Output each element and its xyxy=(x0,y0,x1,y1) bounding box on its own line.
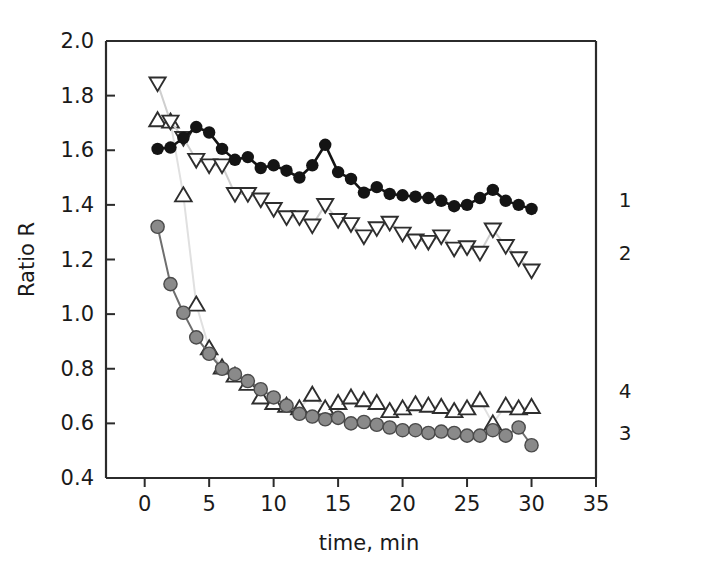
y-tick-label: 0.4 xyxy=(61,466,94,490)
series-1-marker xyxy=(525,203,537,215)
series-3-marker xyxy=(460,429,473,442)
series-1-marker xyxy=(306,159,318,171)
x-axis-title: time, min xyxy=(319,531,419,555)
ratio-r-vs-time-chart: 0.40.60.81.01.21.41.61.82.00510152025303… xyxy=(0,0,727,580)
y-tick-label: 1.0 xyxy=(61,302,94,326)
series-3-marker xyxy=(267,391,280,404)
series-3-marker xyxy=(319,413,332,426)
series-1-marker xyxy=(190,121,202,133)
series-label-1: 1 xyxy=(619,188,632,212)
series-1-marker xyxy=(229,154,241,166)
y-tick-label: 0.6 xyxy=(61,411,94,435)
series-1-marker xyxy=(345,173,357,185)
series-1-marker xyxy=(383,188,395,200)
series-3-marker xyxy=(241,374,254,387)
series-1-marker xyxy=(422,192,434,204)
series-1-marker xyxy=(242,151,254,163)
series-1-marker xyxy=(267,159,279,171)
series-1-marker xyxy=(461,199,473,211)
series-3-marker xyxy=(422,426,435,439)
series-3-marker xyxy=(293,407,306,420)
x-tick-label: 20 xyxy=(389,492,416,516)
series-1-marker xyxy=(164,141,176,153)
chart-background xyxy=(0,0,727,580)
series-1-marker xyxy=(216,143,228,155)
series-label-3: 3 xyxy=(619,421,632,445)
series-1-marker xyxy=(293,171,305,183)
series-1-marker xyxy=(396,189,408,201)
x-tick-label: 5 xyxy=(202,492,215,516)
series-label-2: 2 xyxy=(619,241,632,265)
series-1-marker xyxy=(280,165,292,177)
series-1-marker xyxy=(332,166,344,178)
series-3-marker xyxy=(499,429,512,442)
series-3-marker xyxy=(344,417,357,430)
series-1-marker xyxy=(371,181,383,193)
series-1-marker xyxy=(435,195,447,207)
series-label-4: 4 xyxy=(619,379,632,403)
x-tick-label: 35 xyxy=(583,492,610,516)
series-1-marker xyxy=(487,184,499,196)
x-tick-label: 10 xyxy=(260,492,287,516)
series-3-marker xyxy=(370,418,383,431)
series-1-marker xyxy=(512,199,524,211)
chart-svg: 0.40.60.81.01.21.41.61.82.00510152025303… xyxy=(0,0,727,580)
series-3-marker xyxy=(448,426,461,439)
series-3-marker xyxy=(435,425,448,438)
series-3-marker xyxy=(357,415,370,428)
series-1-marker xyxy=(177,132,189,144)
y-tick-label: 1.6 xyxy=(61,138,94,162)
series-3-marker xyxy=(215,362,228,375)
series-3-marker xyxy=(473,429,486,442)
y-tick-label: 2.0 xyxy=(61,29,94,53)
y-tick-label: 0.8 xyxy=(61,357,94,381)
series-3-marker xyxy=(383,421,396,434)
series-1-marker xyxy=(203,126,215,138)
series-3-marker xyxy=(177,306,190,319)
series-3-marker xyxy=(332,411,345,424)
series-3-marker xyxy=(396,424,409,437)
series-3-marker xyxy=(203,347,216,360)
series-3-marker xyxy=(486,424,499,437)
series-3-marker xyxy=(306,410,319,423)
series-3-marker xyxy=(409,424,422,437)
y-tick-label: 1.4 xyxy=(61,193,94,217)
series-3-marker xyxy=(254,383,267,396)
y-axis-title: Ratio R xyxy=(15,222,39,297)
series-1-marker xyxy=(151,143,163,155)
x-tick-label: 25 xyxy=(454,492,481,516)
series-1-marker xyxy=(448,200,460,212)
series-1-marker xyxy=(358,186,370,198)
series-1-marker xyxy=(409,190,421,202)
y-tick-label: 1.2 xyxy=(61,248,94,272)
series-3-marker xyxy=(228,368,241,381)
x-tick-label: 0 xyxy=(138,492,151,516)
series-1-marker xyxy=(255,162,267,174)
series-3-marker xyxy=(164,277,177,290)
series-1-marker xyxy=(319,139,331,151)
x-tick-label: 15 xyxy=(325,492,352,516)
series-3-marker xyxy=(280,399,293,412)
series-3-marker xyxy=(190,331,203,344)
y-tick-label: 1.8 xyxy=(61,84,94,108)
series-3-marker xyxy=(151,220,164,233)
series-1-marker xyxy=(474,192,486,204)
x-tick-label: 30 xyxy=(518,492,545,516)
series-3-marker xyxy=(512,421,525,434)
series-3-marker xyxy=(525,439,538,452)
series-1-marker xyxy=(500,195,512,207)
